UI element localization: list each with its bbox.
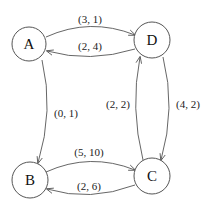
node-c-label: C bbox=[147, 168, 157, 184]
graph-diagram: (3, 1) (2, 4) (0, 1) (2, 2) (4, 2) (5, 1… bbox=[0, 0, 211, 205]
node-a-label: A bbox=[24, 36, 35, 52]
edge-a-to-b-line bbox=[38, 60, 47, 163]
edge-a-to-d-line bbox=[46, 26, 135, 37]
node-d-label: D bbox=[147, 32, 158, 48]
edge-a-to-b-label: (0, 1) bbox=[54, 107, 78, 120]
edge-a-to-d-label: (3, 1) bbox=[78, 13, 102, 26]
edge-d-to-a: (2, 4) bbox=[47, 40, 135, 57]
edge-c-to-d-line bbox=[136, 57, 143, 160]
edge-c-to-d: (2, 2) bbox=[106, 57, 143, 160]
edge-d-to-c-line bbox=[161, 57, 169, 160]
edge-c-to-b-label: (2, 6) bbox=[77, 180, 101, 193]
edge-c-to-d-label: (2, 2) bbox=[106, 98, 130, 111]
edge-a-to-d: (3, 1) bbox=[46, 13, 135, 37]
edge-d-to-c: (4, 2) bbox=[161, 57, 200, 160]
edge-d-to-c-label: (4, 2) bbox=[176, 98, 200, 111]
edge-b-to-c-line bbox=[46, 161, 135, 172]
node-a: A bbox=[12, 27, 46, 61]
edge-d-to-a-label: (2, 4) bbox=[78, 40, 102, 53]
node-b-label: B bbox=[25, 172, 35, 188]
node-d: D bbox=[134, 22, 170, 58]
node-b: B bbox=[12, 162, 48, 198]
graph-canvas: (3, 1) (2, 4) (0, 1) (2, 2) (4, 2) (5, 1… bbox=[0, 0, 211, 205]
edge-c-to-b: (2, 6) bbox=[47, 180, 135, 195]
edge-a-to-b: (0, 1) bbox=[38, 60, 78, 163]
edge-b-to-c: (5, 10) bbox=[46, 146, 135, 172]
edge-b-to-c-label: (5, 10) bbox=[74, 146, 104, 159]
node-c: C bbox=[134, 158, 170, 194]
